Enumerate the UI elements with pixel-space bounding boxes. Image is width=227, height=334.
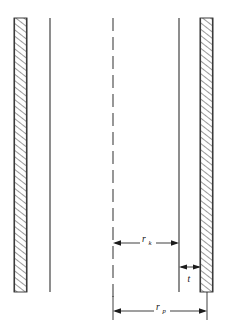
radius-k-arrow-left [113,240,121,246]
right-wall-hatch-fill [200,18,213,292]
thickness-t-symbol: t [188,274,191,284]
radius-p-arrow-right [199,308,207,314]
cross-section-diagram: r k t r p [0,0,227,334]
diagram-canvas: r k t r p [0,0,227,334]
radius-k-arrow-right [171,240,179,246]
dimension-radius-k: r k [113,232,179,246]
radius-k-symbol: r [142,234,146,244]
left-hatched-wall [14,18,27,292]
left-wall-hatch-fill [14,18,27,292]
radius-p-arrow-left [113,308,121,314]
radius-p-subscript: p [162,307,167,314]
thickness-t-arrow-left [179,264,187,269]
dimension-radius-p: r p [113,300,207,314]
dimension-thickness-t: t [179,264,201,284]
right-hatched-wall [200,18,213,292]
radius-p-symbol: r [156,302,160,312]
